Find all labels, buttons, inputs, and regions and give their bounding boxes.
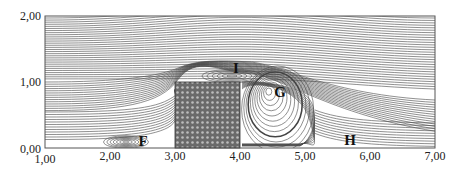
vortex-label-h: H (344, 132, 356, 149)
vortex-label-f: F (138, 133, 147, 150)
x-tick-1: 1,00 (35, 152, 56, 167)
vortex-label-i: I (233, 60, 239, 77)
x-tick-3: 3,00 (165, 149, 186, 164)
y-tick-1: 1,00 (20, 75, 41, 90)
x-tick-5: 5,00 (295, 149, 316, 164)
vortex-label-g: G (274, 84, 286, 101)
streamline-figure: 2,00 1,00 0,00 1,00 2,00 3,00 4,00 5,00 … (0, 0, 466, 173)
x-tick-4: 4,00 (230, 149, 251, 164)
y-tick-2: 2,00 (20, 9, 41, 24)
streamline-plot (0, 0, 466, 173)
x-tick-6: 6,00 (360, 149, 381, 164)
x-tick-7: 7,00 (425, 149, 446, 164)
x-tick-2: 2,00 (100, 149, 121, 164)
obstacle-block (175, 82, 240, 148)
